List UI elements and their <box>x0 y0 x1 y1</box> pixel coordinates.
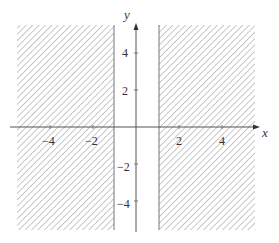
y-axis-label: y <box>122 7 130 22</box>
x-axis-arrow-icon <box>253 125 260 130</box>
region-plot: −4 −2 2 4 4 2 −2 −4 x y <box>0 0 279 243</box>
x-axis-label: x <box>261 125 268 140</box>
y-tick-label: 4 <box>122 46 128 60</box>
y-tick-label: −4 <box>117 197 130 211</box>
y-tick-label: 2 <box>122 84 128 98</box>
y-axis-arrow-icon <box>134 23 139 30</box>
x-tick-label: 4 <box>219 134 225 148</box>
y-tick-label: −2 <box>117 160 130 174</box>
x-tick-label: −4 <box>42 134 55 148</box>
x-tick-label: −2 <box>85 134 98 148</box>
x-tick-label: 2 <box>176 134 182 148</box>
